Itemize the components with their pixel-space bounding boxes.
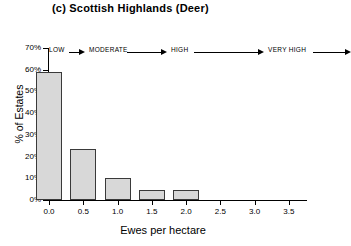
band-label-moderate: MODERATE [89, 43, 128, 57]
x-axis-label: Ewes per hectare [0, 224, 326, 236]
x-tick [255, 201, 256, 205]
y-tick-label: 70% [1, 44, 41, 52]
bar [36, 72, 62, 200]
band-label-high: HIGH [171, 43, 188, 57]
x-tick-label: 1.0 [103, 207, 133, 216]
x-tick [186, 201, 187, 205]
band-label-very-high: VERY HIGH [268, 43, 306, 57]
arrow-right-icon-3 [194, 49, 264, 56]
x-tick [152, 201, 153, 205]
bar [70, 149, 96, 200]
bar [139, 190, 165, 200]
x-tick-label: 1.5 [137, 207, 167, 216]
y-axis-label: % of Estates [13, 59, 25, 169]
intensity-band: LOW MODERATE HIGH VERY HIGH [49, 43, 326, 57]
band-label-low: LOW [49, 43, 65, 57]
x-tick-label: 2.5 [205, 207, 235, 216]
y-tick [43, 48, 49, 49]
page-title: (c) Scottish Highlands (Deer) [52, 2, 209, 14]
x-tick [289, 201, 290, 205]
x-axis-line [48, 200, 307, 201]
x-tick-label: 3.0 [240, 207, 270, 216]
bar [173, 190, 199, 200]
x-tick-label: 3.5 [274, 207, 304, 216]
x-tick [220, 201, 221, 205]
arrow-right-icon-1 [69, 49, 85, 56]
x-tick-label: 0.0 [34, 207, 64, 216]
x-tick-label: 0.5 [68, 207, 98, 216]
arrow-right-icon-2 [127, 49, 167, 56]
bar [105, 178, 131, 200]
x-tick [83, 201, 84, 205]
arrow-right-icon-4 [313, 49, 351, 56]
x-tick [49, 201, 50, 205]
x-tick-label: 2.0 [171, 207, 201, 216]
x-tick [118, 201, 119, 205]
y-tick [43, 70, 49, 71]
